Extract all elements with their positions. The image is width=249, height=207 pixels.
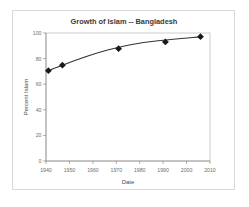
figure-canvas: Growth of Islam -- Bangladesh 0 20 40 60… [0, 0, 249, 207]
x-tick-label-1990: 1990 [157, 167, 169, 173]
y-tick-label-20: 20 [36, 132, 42, 138]
x-axis-title: Date [122, 179, 135, 185]
x-tick-label-1940: 1940 [40, 167, 52, 173]
y-axis-tick-labels: 0 20 40 60 80 100 [33, 30, 42, 164]
x-axis-tick-labels: 1940 1950 1960 1970 1980 1990 2000 2010 [40, 167, 216, 173]
y-tick-label-100: 100 [33, 30, 42, 36]
y-axis-title: Percent Islam [23, 79, 29, 116]
x-tick-label-1970: 1970 [111, 167, 123, 173]
x-axis-ticks [46, 161, 210, 164]
x-tick-label-1950: 1950 [64, 167, 76, 173]
y-tick-label-40: 40 [36, 107, 42, 113]
x-tick-label-2000: 2000 [181, 167, 193, 173]
x-tick-label-2010: 2010 [204, 167, 216, 173]
y-tick-label-0: 0 [39, 158, 42, 164]
y-tick-label-80: 80 [36, 56, 42, 62]
plot-area-frame [46, 33, 210, 161]
y-axis-ticks [43, 33, 46, 161]
growth-of-islam-line-chart: Growth of Islam -- Bangladesh 0 20 40 60… [0, 0, 249, 207]
x-tick-label-1980: 1980 [134, 167, 146, 173]
y-tick-label-60: 60 [36, 81, 42, 87]
x-tick-label-1960: 1960 [87, 167, 99, 173]
chart-title: Growth of Islam -- Bangladesh [71, 17, 178, 26]
